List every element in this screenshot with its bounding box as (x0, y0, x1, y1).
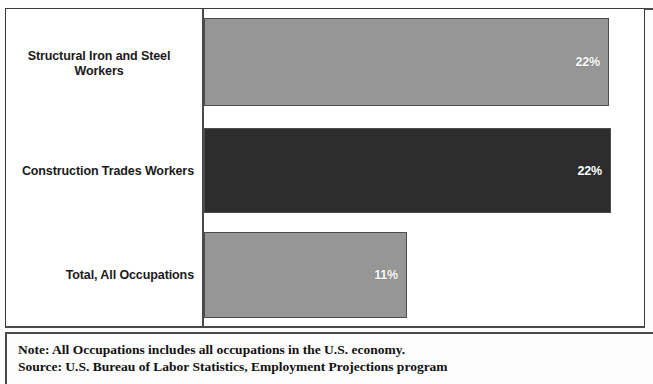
chart-bottom-rule (5, 326, 645, 328)
footer-separator-rule (5, 332, 653, 334)
bar-structural-iron-and-steel-workers: 22% (204, 18, 609, 106)
plot-area: Structural Iron and Steel Workers Constr… (6, 9, 646, 328)
footnote-note: Note: All Occupations includes all occup… (18, 341, 638, 358)
chart-frame: Structural Iron and Steel Workers Constr… (5, 8, 645, 327)
category-axis-line (202, 9, 204, 328)
category-label-text: Construction Trades Workers (22, 164, 194, 178)
bar-value-label: 22% (576, 55, 600, 69)
footnote-source: Source: U.S. Bureau of Labor Statistics,… (18, 358, 638, 375)
bar-total-all-occupations: 11% (204, 232, 407, 318)
footnotes: Note: All Occupations includes all occup… (18, 341, 638, 375)
footer-left-edge (5, 332, 7, 384)
category-label-line-1: Structural Iron and Steel (6, 49, 192, 64)
category-label-construction-trades-workers: Construction Trades Workers (6, 164, 194, 179)
category-label-column: Structural Iron and Steel Workers Constr… (6, 9, 194, 328)
bar-construction-trades-workers: 22% (204, 128, 611, 213)
bar-value-label: 22% (578, 164, 602, 178)
category-label-text: Total, All Occupations (66, 268, 194, 282)
bar-value-label: 11% (374, 268, 398, 282)
category-label-total-all-occupations: Total, All Occupations (6, 268, 194, 283)
bar-chart-figure: Structural Iron and Steel Workers Constr… (0, 0, 653, 384)
category-label-line-2: Workers (6, 64, 192, 79)
category-label-structural-iron-and-steel-workers: Structural Iron and Steel Workers (6, 49, 194, 79)
